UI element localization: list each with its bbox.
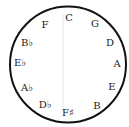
- note-label-d: D: [106, 38, 114, 48]
- note-label-a-flat: A♭: [21, 83, 33, 93]
- note-label-e: E: [108, 82, 115, 92]
- note-label-a: A: [113, 59, 120, 69]
- note-label-d-flat: D♭: [39, 100, 52, 110]
- note-label-g: G: [91, 19, 99, 29]
- note-label-c: C: [65, 13, 73, 23]
- note-label-b-flat: B♭: [21, 38, 33, 48]
- outer-circle: [10, 7, 126, 123]
- note-label-f-sharp: F♯: [62, 108, 74, 118]
- circle-of-fifths-diagram: C G D A E B F♯ D♭ A♭ E♭ B♭ F: [0, 0, 129, 127]
- note-label-e-flat: E♭: [14, 58, 26, 68]
- note-label-b: B: [93, 101, 100, 111]
- note-label-f: F: [42, 20, 49, 30]
